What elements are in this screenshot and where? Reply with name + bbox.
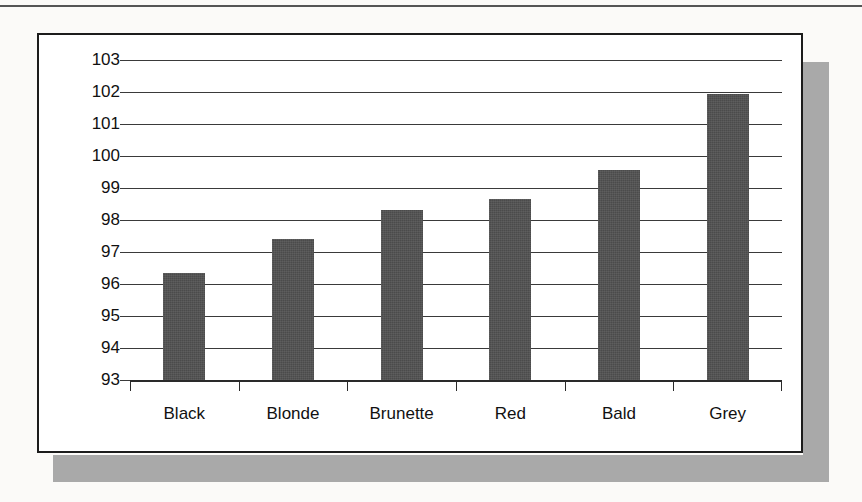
y-axis-tick xyxy=(120,252,130,253)
bar xyxy=(707,94,749,380)
bar xyxy=(272,239,314,380)
bar xyxy=(163,273,205,380)
x-axis-tick xyxy=(565,382,566,391)
y-axis-tick xyxy=(120,188,130,189)
gridline xyxy=(130,60,782,61)
x-axis-category-label: Grey xyxy=(673,405,782,423)
y-axis-tick xyxy=(120,124,130,125)
y-axis-tick xyxy=(120,220,130,221)
y-axis-tick xyxy=(120,348,130,349)
gridline xyxy=(130,348,782,349)
x-axis-category-label: Blonde xyxy=(239,405,348,423)
y-axis-tick-label: 96 xyxy=(50,275,120,292)
y-axis-tick-label: 97 xyxy=(50,243,120,260)
x-axis-tick xyxy=(130,382,131,391)
x-axis-tick xyxy=(673,382,674,391)
y-axis-tick xyxy=(120,380,130,381)
y-axis-tick-label: 101 xyxy=(50,115,120,132)
y-axis-tick-label: 102 xyxy=(50,83,120,100)
gridline xyxy=(130,156,782,157)
y-axis-tick-label: 93 xyxy=(50,371,120,388)
y-axis-tick-label: 100 xyxy=(50,147,120,164)
y-axis-tick-label: 94 xyxy=(50,339,120,356)
gridline xyxy=(130,316,782,317)
page-top-rule xyxy=(0,5,862,7)
y-axis-tick xyxy=(120,316,130,317)
y-axis-tick-label: 95 xyxy=(50,307,120,324)
bar xyxy=(489,199,531,380)
figure-shadow-bottom xyxy=(53,455,829,482)
gridline xyxy=(130,252,782,253)
x-axis-category-label: Brunette xyxy=(347,405,456,423)
gridline xyxy=(130,188,782,189)
x-axis-category-label: Red xyxy=(456,405,565,423)
bar xyxy=(381,210,423,380)
y-axis-tick-label: 103 xyxy=(50,51,120,68)
y-axis-tick-label: 99 xyxy=(50,179,120,196)
bar xyxy=(598,170,640,380)
x-axis-category-label: Bald xyxy=(565,405,674,423)
y-axis-tick xyxy=(120,92,130,93)
x-axis-tick xyxy=(781,382,782,391)
y-axis-tick xyxy=(120,156,130,157)
x-axis-tick xyxy=(239,382,240,391)
chart-figure-frame: 10310210110099989796959493 BlackBlondeBr… xyxy=(37,33,803,453)
x-axis-tick xyxy=(347,382,348,391)
gridline xyxy=(130,220,782,221)
bar-chart-plot-area: 10310210110099989796959493 BlackBlondeBr… xyxy=(130,60,782,380)
gridline xyxy=(130,284,782,285)
gridline xyxy=(130,92,782,93)
y-axis-tick xyxy=(120,60,130,61)
figure-shadow-right xyxy=(803,62,829,482)
x-axis-tick xyxy=(456,382,457,391)
y-axis-tick xyxy=(120,284,130,285)
gridline xyxy=(130,124,782,125)
y-axis-tick-label: 98 xyxy=(50,211,120,228)
x-axis-category-label: Black xyxy=(130,405,239,423)
